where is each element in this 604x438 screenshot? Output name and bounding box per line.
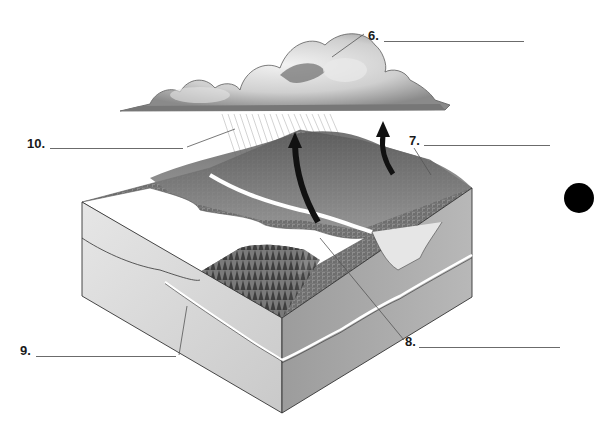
answer-blank-9[interactable] (36, 356, 176, 357)
label-number-9: 9. (20, 344, 31, 357)
marker-dot (564, 183, 594, 213)
answer-blank-6[interactable] (384, 41, 524, 42)
label-number-10: 10. (27, 137, 45, 150)
leader-10 (187, 129, 235, 147)
label-number-7: 7. (409, 134, 420, 147)
answer-blank-7[interactable] (424, 145, 550, 146)
label-number-8: 8. (405, 335, 416, 348)
water-cycle-diagram: 6. 10. 7. 9. 8. (0, 0, 604, 438)
answer-blank-10[interactable] (50, 148, 183, 149)
diagram-illustration (0, 0, 604, 438)
cloud (120, 34, 450, 111)
answer-blank-8[interactable] (419, 347, 560, 348)
label-number-6: 6. (368, 29, 379, 42)
